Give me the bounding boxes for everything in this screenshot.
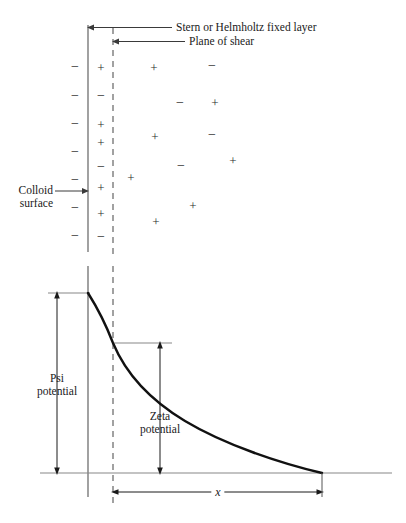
diffuse-charge-positive-icon: + [151, 130, 158, 143]
double-layer-diagram [0, 0, 406, 523]
surface-charge-negative-icon: − [71, 173, 79, 187]
diffuse-charge-negative-icon: − [176, 96, 184, 110]
psi-arrowhead-bottom [54, 468, 60, 476]
stern-charge-positive-icon: + [97, 61, 104, 74]
stern-charge-positive-icon: + [97, 136, 104, 149]
diffuse-charge-negative-icon: − [177, 159, 185, 173]
diffuse-charge-positive-icon: + [211, 96, 218, 109]
psi-potential-label-line1: Psi [22, 372, 92, 385]
stern-charge-negative-icon: − [97, 230, 105, 244]
diffuse-charge-positive-icon: + [189, 199, 196, 212]
surface-charge-negative-icon: − [71, 60, 79, 74]
zeta-potential-label-line2: potential [125, 423, 195, 436]
x-arrowhead-left [111, 489, 119, 495]
diffuse-charge-negative-icon: − [208, 59, 216, 73]
zeta-arrowhead-top [157, 341, 163, 349]
zeta-arrowhead-bottom [157, 468, 163, 476]
zeta-potential-label-line1: Zeta [125, 410, 195, 423]
colloid-surface-label-line1: Colloid [0, 184, 53, 197]
diffuse-charge-positive-icon: + [229, 154, 236, 167]
surface-charge-negative-icon: − [71, 229, 79, 243]
psi-potential-label-line2: potential [22, 385, 92, 398]
psi-arrowhead-top [54, 291, 60, 299]
surface-charge-negative-icon: − [71, 89, 79, 103]
x-arrowhead-right [317, 489, 325, 495]
diffuse-charge-positive-icon: + [127, 171, 134, 184]
diffuse-charge-negative-icon: − [208, 128, 216, 142]
colloid-surface-label-line2: surface [0, 197, 53, 210]
diffuse-charge-positive-icon: + [150, 61, 157, 74]
surface-charge-negative-icon: − [71, 117, 79, 131]
potential-decay-curve [88, 293, 322, 473]
stern-charge-positive-icon: + [97, 181, 104, 194]
stern-charge-positive-icon: + [97, 118, 104, 131]
stern-layer-label: Stern or Helmholtz fixed layer [176, 21, 317, 34]
diffuse-charge-positive-icon: + [152, 215, 159, 228]
stern-charge-negative-icon: − [97, 89, 105, 103]
x-axis-label: x [211, 485, 224, 500]
plane-of-shear-label: Plane of shear [189, 35, 254, 48]
stern-charge-negative-icon: − [97, 160, 105, 174]
stern-charge-positive-icon: + [97, 207, 104, 220]
surface-charge-negative-icon: − [71, 145, 79, 159]
surface-charge-negative-icon: − [71, 201, 79, 215]
